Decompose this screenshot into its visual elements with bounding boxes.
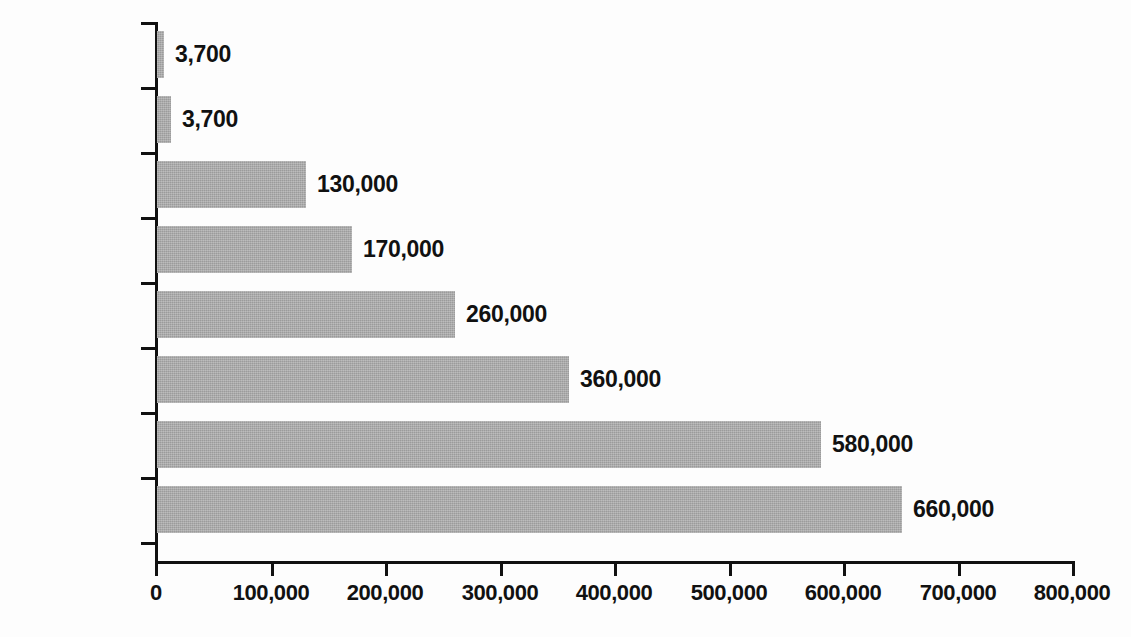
- bar-value-label-laos: 3,700: [175, 22, 231, 87]
- value-tick: [843, 561, 846, 576]
- bar-row: Philippines3,700: [0, 87, 1131, 152]
- bar-philippines[interactable]: [157, 96, 171, 143]
- value-tick-label: 700,000: [920, 580, 997, 606]
- value-tick: [385, 561, 388, 576]
- value-tick: [155, 561, 158, 576]
- value-tick-label: 500,000: [691, 580, 768, 606]
- bar-value-label-philippines: 3,700: [182, 87, 238, 152]
- bar-value-label-vietnam: 260,000: [466, 282, 547, 347]
- bar-value-label-indonesia: 170,000: [363, 217, 444, 282]
- value-tick: [500, 561, 503, 576]
- value-tick-label: 300,000: [462, 580, 539, 606]
- value-tick-label: 0: [150, 580, 162, 606]
- bar-row: Cambodia130,000: [0, 152, 1131, 217]
- bar-value-label-cambodia: 130,000: [317, 152, 398, 217]
- value-tick-label: 600,000: [805, 580, 882, 606]
- bar-thailand[interactable]: [157, 421, 821, 468]
- bar-value-label-thailand: 580,000: [832, 412, 913, 477]
- bar-row: Laos3,700: [0, 22, 1131, 87]
- bar-row: Thailand580,000: [0, 412, 1131, 477]
- bar-indonesia[interactable]: [157, 226, 352, 273]
- bar-myanmar[interactable]: [157, 356, 569, 403]
- bar-row: China660,000: [0, 477, 1131, 542]
- value-tick: [271, 561, 274, 576]
- value-tick-label: 100,000: [233, 580, 310, 606]
- value-tick: [614, 561, 617, 576]
- bar-row: Myanmar360,000: [0, 347, 1131, 412]
- value-tick: [729, 561, 732, 576]
- bar-value-label-myanmar: 360,000: [580, 347, 661, 412]
- bar-cambodia[interactable]: [157, 161, 306, 208]
- bar-value-label-china: 660,000: [913, 477, 994, 542]
- plot-area: Laos3,700Philippines3,700Cambodia130,000…: [0, 0, 1131, 637]
- bar-row: Indonesia170,000: [0, 217, 1131, 282]
- value-tick: [1072, 561, 1075, 576]
- bar-row: Vietnam260,000: [0, 282, 1131, 347]
- value-tick-label: 800,000: [1034, 580, 1111, 606]
- bar-china[interactable]: [157, 486, 902, 533]
- bar-vietnam[interactable]: [157, 291, 455, 338]
- value-tick: [958, 561, 961, 576]
- value-tick-label: 400,000: [576, 580, 653, 606]
- category-tick: [141, 542, 156, 545]
- bar-chart: Laos3,700Philippines3,700Cambodia130,000…: [0, 0, 1131, 637]
- value-tick-label: 200,000: [347, 580, 424, 606]
- bar-laos[interactable]: [157, 31, 164, 78]
